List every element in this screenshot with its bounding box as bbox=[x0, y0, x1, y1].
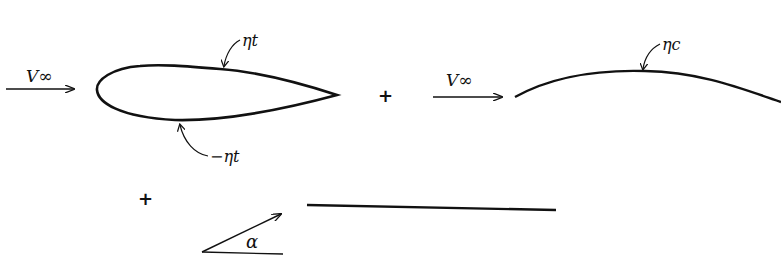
flat-plate bbox=[307, 205, 556, 210]
lower-surface-pointer bbox=[180, 125, 208, 156]
plus-operator-2: + bbox=[138, 188, 153, 209]
camber-panel: V∞ ηc bbox=[433, 35, 781, 102]
lower-thickness-label: −ηt bbox=[210, 147, 240, 166]
upper-surface-pointer bbox=[224, 40, 240, 66]
camber-label: ηc bbox=[662, 35, 681, 54]
angle-of-attack-label: α bbox=[246, 231, 258, 252]
reference-line bbox=[202, 252, 283, 254]
freestream-label-2: V∞ bbox=[446, 70, 472, 90]
symmetric-airfoil-shape bbox=[97, 65, 337, 120]
airfoil-decomposition-diagram: V∞ ηt −ηt + V∞ ηc + α bbox=[0, 0, 781, 260]
freestream-label: V∞ bbox=[26, 66, 52, 86]
camber-line bbox=[515, 71, 781, 102]
thickness-panel: V∞ ηt −ηt bbox=[6, 31, 337, 166]
incidence-arrow bbox=[202, 214, 281, 252]
camber-pointer bbox=[643, 44, 660, 69]
upper-thickness-label: ηt bbox=[242, 31, 259, 50]
plus-operator-1: + bbox=[378, 85, 393, 106]
incidence-panel: α bbox=[202, 205, 556, 254]
